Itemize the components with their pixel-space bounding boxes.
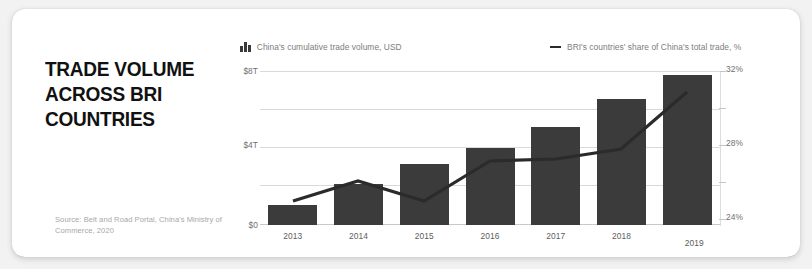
bar-group [260,71,720,225]
y-axis-right-tick: 32% [726,64,743,74]
bar-2018[interactable] [597,99,646,225]
bar-2017[interactable] [531,127,580,225]
bar-slot [260,71,326,225]
bar-slot [589,71,655,225]
plot-area [260,71,720,225]
x-label-2015: 2015 [391,231,457,241]
bar-slot [457,71,523,225]
x-label-2016: 2016 [457,231,523,241]
y-axis-right: 32% 28% 24% [726,9,760,257]
legend-item-line: BRI's countries' share of China's total … [550,42,741,52]
x-label-2014: 2014 [326,231,392,241]
x-label-2013: 2013 [260,231,326,241]
y-axis-left: $8T $4T $0 [232,9,258,257]
bar-slot [326,71,392,225]
bar-2013[interactable] [268,205,317,225]
x-label-2017: 2017 [523,231,589,241]
bar-slot [523,71,589,225]
bar-2019[interactable] [663,75,712,225]
line-segment-icon [550,46,561,48]
chart-card: TRADE VOLUME ACROSS BRI COUNTRIES Source… [12,9,800,257]
x-label-2018: 2018 [589,231,655,241]
y-axis-left-tick: $4T [243,140,258,150]
left-panel: TRADE VOLUME ACROSS BRI COUNTRIES Source… [45,9,230,257]
y-axis-right-tick: 24% [726,212,743,222]
bar-2015[interactable] [400,164,449,225]
bar-slot [654,71,720,225]
legend-label-bars: China's cumulative trade volume, USD [257,42,402,52]
y-axis-left-tick: $8T [243,66,258,76]
legend-label-line: BRI's countries' share of China's total … [567,42,741,52]
bar-2016[interactable] [466,148,515,225]
y-axis-right-tick: 28% [726,138,743,148]
y-axis-left-tick: $0 [249,220,258,230]
x-label-2019: 2019 [661,238,727,248]
bar-2014[interactable] [334,184,383,225]
x-axis-labels: 2013 2014 2015 2016 2017 2018 2019 [260,231,720,241]
page-title: TRADE VOLUME ACROSS BRI COUNTRIES [45,56,212,131]
source-note: Source: Belt and Road Portal, China's Mi… [55,214,230,236]
right-axis-ticks [719,9,726,257]
legend-item-bars: China's cumulative trade volume, USD [240,42,402,52]
bar-slot [391,71,457,225]
